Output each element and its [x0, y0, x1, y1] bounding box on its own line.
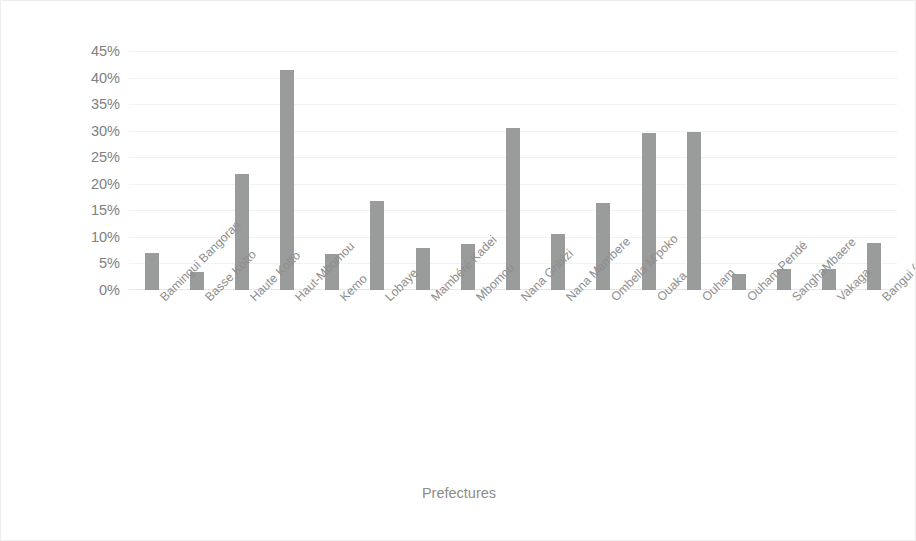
- gridline: [129, 51, 897, 52]
- x-tick-label: Lobaye: [383, 295, 392, 304]
- y-tick-label: 15%: [91, 203, 120, 218]
- x-tick-label: Basse Kotto: [203, 295, 212, 304]
- x-tick-label: Haut-Mbomou: [293, 295, 302, 304]
- x-tick-label: Ombella M'poko: [609, 295, 618, 304]
- bar: [370, 201, 384, 290]
- y-tick-label: 35%: [91, 97, 120, 112]
- x-tick-label: Ouaka: [655, 295, 664, 304]
- y-tick-label: 10%: [91, 230, 120, 245]
- x-axis-title: Prefectures: [1, 485, 916, 501]
- x-tick-label: Ouham Pendé: [745, 295, 754, 304]
- gridline: [129, 78, 897, 79]
- x-tick-label: Haute Kotto: [248, 295, 257, 304]
- y-tick-label: 5%: [99, 256, 120, 271]
- bar: [416, 248, 430, 290]
- x-tick-label: Vakaga: [835, 295, 844, 304]
- x-tick-label: Kemo: [338, 295, 347, 304]
- x-tick-label: Bangui (autonomous commune): [880, 295, 889, 304]
- y-tick-label: 0%: [99, 283, 120, 298]
- x-tick-label: Bamingui Bangoran: [158, 295, 167, 304]
- y-tick-label: 45%: [91, 44, 120, 59]
- gridline: [129, 104, 897, 105]
- x-tick-label: Mambéré Kadei: [429, 295, 438, 304]
- x-tick-label: SanghaMbaere: [790, 295, 799, 304]
- x-tick-label: Mbomou: [474, 295, 483, 304]
- y-tick-label: 25%: [91, 150, 120, 165]
- y-tick-label: 30%: [91, 123, 120, 138]
- y-tick-label: 20%: [91, 177, 120, 192]
- x-tick-label: Ouham: [700, 295, 709, 304]
- chart-figure: percentage of IDPs 0%5%10%15%20%25%30%35…: [0, 0, 916, 541]
- x-tick-label: Nana Mambere: [564, 295, 573, 304]
- bar: [687, 132, 701, 290]
- x-tick-label: Nana Gribizi: [519, 295, 528, 304]
- y-tick-label: 40%: [91, 70, 120, 85]
- x-axis-category-labels: Bamingui BangoranBasse KottoHaute KottoH…: [129, 295, 897, 465]
- bar: [867, 243, 881, 290]
- bar: [145, 253, 159, 290]
